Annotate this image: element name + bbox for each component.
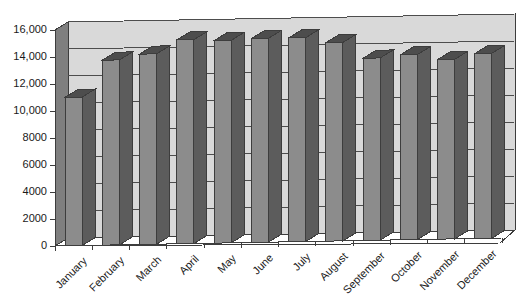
bar-side-face bbox=[380, 50, 393, 240]
x-axis-tick-label: June bbox=[250, 251, 275, 276]
x-axis-tick-label: July bbox=[290, 250, 313, 273]
bar bbox=[363, 50, 393, 241]
bar bbox=[326, 34, 356, 241]
bar bbox=[65, 89, 95, 246]
x-axis-tick-label: April bbox=[177, 253, 201, 277]
y-axis-tick-label: 14,000 bbox=[13, 50, 47, 62]
bar-front-face bbox=[438, 59, 455, 239]
bar-chart: 0200040006000800010,00012,00014,00016,00… bbox=[0, 0, 532, 296]
y-axis-labels: 0200040006000800010,00012,00014,00016,00… bbox=[13, 23, 47, 251]
bar-front-face bbox=[363, 58, 380, 241]
y-axis-tick-label: 2000 bbox=[23, 212, 47, 224]
bar-side-face bbox=[82, 89, 95, 246]
y-axis-tick-label: 6000 bbox=[23, 158, 47, 170]
chart-canvas: 0200040006000800010,00012,00014,00016,00… bbox=[0, 0, 532, 296]
y-axis-tick-label: 12,000 bbox=[13, 77, 47, 89]
y-axis-tick-label: 16,000 bbox=[13, 23, 47, 35]
x-axis-tick-label: November bbox=[417, 248, 462, 293]
x-axis-tick-label: September bbox=[341, 249, 388, 296]
bar-front-face bbox=[326, 42, 343, 241]
bar-side-face bbox=[343, 34, 356, 240]
bar bbox=[251, 30, 281, 242]
bar bbox=[214, 32, 244, 243]
bar-front-face bbox=[65, 97, 82, 246]
y-axis-tick-label: 10,000 bbox=[13, 104, 47, 116]
bar bbox=[177, 32, 207, 244]
bar bbox=[102, 52, 132, 245]
bar-side-face bbox=[157, 46, 170, 244]
y-axis-ticks bbox=[50, 30, 55, 246]
bar-side-face bbox=[119, 52, 132, 245]
x-axis-tick-label: January bbox=[53, 254, 90, 291]
x-axis-tick-label: December bbox=[454, 247, 499, 292]
y-axis-tick-label: 0 bbox=[41, 239, 47, 251]
bar-front-face bbox=[289, 38, 306, 242]
x-axis-tick-label: May bbox=[215, 252, 239, 276]
bar-front-face bbox=[140, 54, 157, 245]
bar-front-face bbox=[214, 40, 231, 243]
bar-side-face bbox=[231, 32, 244, 243]
bar bbox=[140, 46, 170, 245]
bar-front-face bbox=[400, 55, 417, 240]
x-axis-tick-label: August bbox=[317, 250, 350, 283]
bar bbox=[400, 47, 430, 240]
bar-front-face bbox=[251, 38, 268, 242]
bar-side-face bbox=[268, 30, 281, 242]
y-axis-tick-label: 4000 bbox=[23, 185, 47, 197]
bar-side-face bbox=[306, 30, 319, 242]
bar bbox=[289, 30, 319, 242]
x-axis-tick-label: March bbox=[133, 253, 163, 283]
x-axis-labels: JanuaryFebruaryMarchAprilMayJuneJulyAugu… bbox=[53, 247, 499, 296]
bar bbox=[438, 51, 468, 239]
bar-front-face bbox=[102, 60, 119, 245]
x-axis-tick-label: February bbox=[87, 254, 127, 294]
bar bbox=[475, 45, 505, 238]
x-axis-tick-label: October bbox=[388, 248, 424, 284]
bar-side-face bbox=[194, 32, 207, 244]
bar-side-face bbox=[417, 47, 430, 240]
bar-front-face bbox=[475, 53, 492, 238]
y-axis-tick-label: 8000 bbox=[23, 131, 47, 143]
bar-side-face bbox=[455, 51, 468, 239]
bar-side-face bbox=[492, 45, 505, 238]
bar-front-face bbox=[177, 40, 194, 244]
